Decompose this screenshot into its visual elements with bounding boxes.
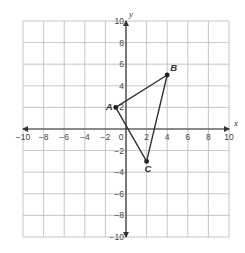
point-label-b: B [170,62,177,73]
y-axis-label: y [128,9,133,19]
x-tick-label: 6 [185,132,190,142]
y-tick-label: −4 [114,167,124,177]
y-tick-label: −6 [114,189,124,199]
x-tick-label: −10 [16,132,31,142]
point-b [165,73,170,78]
x-tick-label: 0 [119,132,124,142]
x-tick-label: −6 [59,132,69,142]
y-tick-label: −8 [114,210,124,220]
point-label-c: C [145,163,152,174]
x-tick-label: −2 [101,132,111,142]
y-tick-label: −2 [114,146,124,156]
y-tick-label: 4 [119,81,124,91]
point-a [113,105,118,110]
y-tick-label: 10 [115,16,125,26]
x-tick-label: 10 [224,132,234,142]
x-tick-label: −8 [39,132,49,142]
point-label-a: A [105,101,113,112]
y-tick-label: 8 [119,38,124,48]
x-tick-label: −4 [80,132,90,142]
y-tick-label: −10 [110,232,125,242]
x-axis-label: x [233,118,238,128]
x-tick-label: 2 [144,132,149,142]
axes: xy [23,9,238,237]
x-tick-label: 8 [206,132,211,142]
y-tick-label: 6 [119,59,124,69]
coordinate-plane: xy −10−8−6−4−20246810−10−8−6−4−2246810 A… [0,0,245,253]
x-tick-label: 4 [165,132,170,142]
